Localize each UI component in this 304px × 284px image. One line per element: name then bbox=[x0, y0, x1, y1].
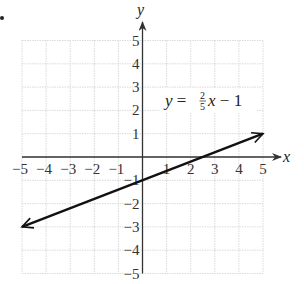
y-tick-label: 4 bbox=[132, 56, 140, 72]
x-tick-label: 5 bbox=[259, 161, 267, 177]
x-tick-label: −1 bbox=[108, 161, 124, 177]
coordinate-plane: −5−4−3−2−11234554321−1−2−3−4−5 y = 25x −… bbox=[0, 0, 304, 284]
fraction-denominator: 5 bbox=[200, 101, 205, 112]
y-tick-label: 1 bbox=[132, 126, 140, 142]
y-tick-label: −5 bbox=[124, 266, 140, 282]
x-tick-label: −2 bbox=[84, 161, 100, 177]
y-tick-label: −4 bbox=[124, 242, 140, 258]
fraction-numerator: 2 bbox=[200, 90, 205, 101]
x-tick-label: 3 bbox=[211, 161, 219, 177]
x-tick-label: −4 bbox=[36, 161, 52, 177]
equation-rhs: x − 1 bbox=[207, 91, 242, 110]
equation-label: y = 25x − 1 bbox=[160, 88, 256, 113]
axes bbox=[22, 22, 281, 274]
x-tick-label: −5 bbox=[12, 161, 28, 177]
equation-text: y = bbox=[163, 91, 186, 110]
y-tick-label: 3 bbox=[132, 79, 140, 95]
y-tick-label: 2 bbox=[132, 102, 140, 118]
y-tick-label: −2 bbox=[124, 196, 140, 212]
x-tick-label: −3 bbox=[60, 161, 76, 177]
y-axis-label: y bbox=[135, 1, 145, 19]
x-axis-label: x bbox=[282, 148, 290, 165]
x-tick-label: 4 bbox=[235, 161, 243, 177]
y-tick-label: −3 bbox=[124, 219, 140, 235]
y-tick-label: 5 bbox=[132, 33, 140, 49]
